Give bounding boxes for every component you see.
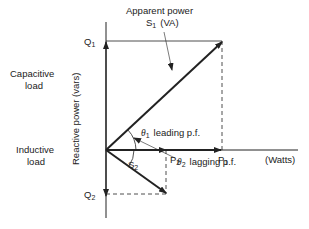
s2-label: S2 (128, 159, 138, 171)
watts-label: (Watts) (265, 154, 295, 165)
capacitive-load-label-2: load (25, 80, 43, 91)
theta2-leader (134, 138, 175, 158)
q1-label: Q1 (84, 36, 95, 48)
theta1-label: θ1leading p.f. (141, 127, 200, 139)
inductive-load-label-2: load (27, 156, 45, 167)
apparent-power-label: Apparent power (126, 5, 193, 16)
s1-leader (164, 32, 172, 70)
theta1-arc (128, 130, 136, 150)
inductive-load-label-1: Inductive (16, 144, 54, 155)
s1-label: S1(VA) (146, 17, 179, 29)
reactive-power-axis-label: Reactive power (vars) (70, 73, 81, 165)
s2-vector (106, 150, 166, 193)
theta2-label: θ2lagging p.f. (177, 156, 236, 168)
q2-label: Q2 (84, 189, 95, 201)
capacitive-load-label-1: Capacitive (10, 68, 54, 79)
power-triangle-diagram: Apparent power S1(VA) Q1 Q2 P2 P1 (Watts… (0, 0, 309, 229)
